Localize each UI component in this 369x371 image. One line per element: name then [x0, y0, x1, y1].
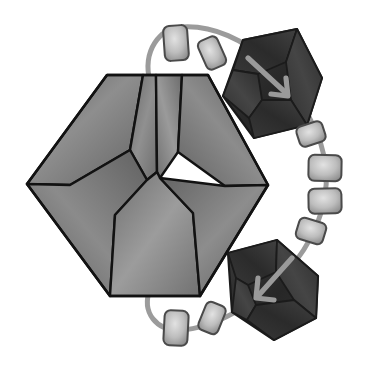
chain-link-1 [163, 25, 189, 62]
figure-canvas [0, 0, 369, 371]
chain-link-8 [163, 310, 189, 346]
polyhedron-chain-diagram [0, 0, 369, 371]
chain-link-4 [308, 155, 341, 182]
chain-link-5 [308, 188, 341, 214]
